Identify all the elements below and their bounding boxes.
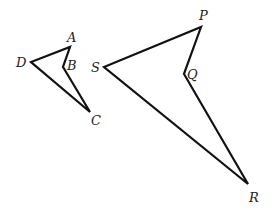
vertex-label-p: P xyxy=(198,8,208,23)
vertex-label-s: S xyxy=(91,60,100,75)
vertex-label-d: D xyxy=(15,55,27,70)
quadrilateral-pqrs xyxy=(104,27,248,184)
vertex-label-c: C xyxy=(91,113,101,128)
vertex-label-q: Q xyxy=(187,67,198,82)
vertex-label-a: A xyxy=(66,30,76,45)
figure: ABCDPQRS xyxy=(0,0,272,215)
quadrilateral-abcd xyxy=(31,47,90,112)
vertex-label-b: B xyxy=(66,58,77,73)
vertex-label-r: R xyxy=(248,190,259,205)
